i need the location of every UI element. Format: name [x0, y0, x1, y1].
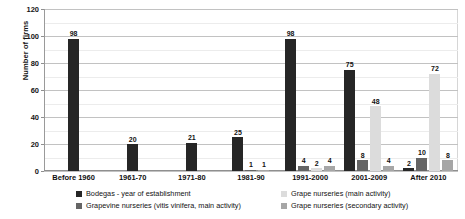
- bar[interactable]: 75: [344, 70, 355, 171]
- x-axis-tick-label: 1991-2000: [281, 173, 340, 182]
- bar[interactable]: 8: [357, 160, 368, 171]
- bar[interactable]: 48: [370, 106, 381, 171]
- legend-item[interactable]: Bodegas - year of establishment: [76, 188, 281, 199]
- bar-value-label: 72: [431, 65, 439, 72]
- bar-slot: 98: [285, 9, 296, 171]
- bar-chart: Number of firms 020406080100120 98202125…: [0, 0, 465, 219]
- bar-slot: 2: [311, 9, 322, 171]
- bar-slot: 25: [232, 9, 243, 171]
- bar-group: 2511: [221, 9, 280, 171]
- bar[interactable]: 72: [429, 74, 440, 171]
- bar-slot: 20: [127, 9, 138, 171]
- x-axis-tick-label: 1971-80: [162, 173, 221, 182]
- bar-slot: 4: [298, 9, 309, 171]
- bar-groups: 982021251198424758484210728: [44, 9, 458, 171]
- legend: Bodegas - year of establishmentGrape nur…: [44, 188, 458, 211]
- y-axis-tick-label: 40: [31, 113, 39, 122]
- bar[interactable]: 21: [186, 143, 197, 171]
- bar-slot: 48: [370, 9, 381, 171]
- bar-slot: 4: [383, 9, 394, 171]
- plot-area: 020406080100120 982021251198424758484210…: [44, 9, 458, 171]
- bar[interactable]: 4: [383, 166, 394, 171]
- y-axis-tick-label: 0: [35, 167, 39, 176]
- legend-item[interactable]: Grapevine nurseries (vitis vinifera, mai…: [76, 200, 281, 211]
- bar[interactable]: 25: [232, 137, 243, 171]
- bar-value-label: 21: [188, 134, 196, 141]
- x-axis-labels: Before 19601961-701971-801981-901991-200…: [44, 173, 458, 182]
- bar[interactable]: 20: [127, 144, 138, 171]
- bar-value-label: 48: [372, 98, 380, 105]
- bar-value-label: 1: [249, 161, 253, 168]
- bar[interactable]: 10: [416, 158, 427, 172]
- bar-value-label: 25: [234, 129, 242, 136]
- legend-swatch-icon: [281, 203, 287, 209]
- bar[interactable]: 1: [258, 170, 269, 171]
- x-axis-tick-label: 1961-70: [103, 173, 162, 182]
- bar-group: 98: [44, 9, 103, 171]
- y-axis-tick-label: 100: [26, 32, 39, 41]
- y-axis-title: Number of firms: [21, 0, 30, 106]
- y-axis-tick-label: 20: [31, 140, 39, 149]
- legend-label: Grapevine nurseries (vitis vinifera, mai…: [86, 202, 241, 209]
- x-axis-tick-label: 2001-2009: [340, 173, 399, 182]
- bar-slot: 1: [258, 9, 269, 171]
- bar-group: 210728: [399, 9, 458, 171]
- legend-label: Grape nurseries (main activity): [291, 190, 390, 197]
- bar-value-label: 98: [287, 30, 295, 37]
- legend-swatch-icon: [281, 191, 287, 197]
- bar-value-label: 98: [70, 30, 78, 37]
- y-axis-tick-mark: [41, 171, 44, 172]
- bar[interactable]: 1: [245, 170, 256, 171]
- bar-value-label: 1: [262, 161, 266, 168]
- x-axis-tick-label: Before 1960: [44, 173, 103, 182]
- gridline-major: [44, 171, 458, 172]
- bar-value-label: 10: [418, 149, 426, 156]
- legend-label: Bodegas - year of establishment: [86, 190, 191, 197]
- y-axis-tick-label: 60: [31, 86, 39, 95]
- bar-slot: 10: [416, 9, 427, 171]
- bar-slot: 72: [429, 9, 440, 171]
- bar-value-label: 4: [302, 157, 306, 164]
- bar-slot: 21: [186, 9, 197, 171]
- bar[interactable]: 4: [298, 166, 309, 171]
- legend-swatch-icon: [76, 191, 82, 197]
- bar[interactable]: 2: [311, 168, 322, 171]
- legend-label: Grape nurseries (secondary activity): [291, 202, 408, 209]
- y-axis-tick-label: 80: [31, 59, 39, 68]
- bar-slot: 4: [324, 9, 335, 171]
- bar-group: 20: [103, 9, 162, 171]
- bar-value-label: 2: [407, 160, 411, 167]
- bar-group: 98424: [281, 9, 340, 171]
- bar[interactable]: 98: [68, 39, 79, 171]
- bar-value-label: 8: [361, 152, 365, 159]
- bar-value-label: 2: [315, 160, 319, 167]
- y-axis-tick-label: 120: [26, 5, 39, 14]
- bar-group: 758484: [340, 9, 399, 171]
- bar-value-label: 20: [129, 136, 137, 143]
- bar-slot: 8: [442, 9, 453, 171]
- bar-slot: 8: [357, 9, 368, 171]
- legend-swatch-icon: [76, 203, 82, 209]
- bar-value-label: 4: [387, 157, 391, 164]
- legend-item[interactable]: Grape nurseries (main activity): [281, 188, 465, 199]
- bar-value-label: 75: [346, 61, 354, 68]
- legend-item[interactable]: Grape nurseries (secondary activity): [281, 200, 465, 211]
- bar-value-label: 8: [446, 152, 450, 159]
- bar-slot: 2: [403, 9, 414, 171]
- bar-slot: 75: [344, 9, 355, 171]
- bar[interactable]: 4: [324, 166, 335, 171]
- bar-group: 21: [162, 9, 221, 171]
- bar-slot: 98: [68, 9, 79, 171]
- x-axis-tick-label: After 2010: [399, 173, 458, 182]
- bar[interactable]: 8: [442, 160, 453, 171]
- bar[interactable]: 98: [285, 39, 296, 171]
- bar-value-label: 4: [328, 157, 332, 164]
- bar-slot: 1: [245, 9, 256, 171]
- x-axis-tick-label: 1981-90: [221, 173, 280, 182]
- bar[interactable]: 2: [403, 168, 414, 171]
